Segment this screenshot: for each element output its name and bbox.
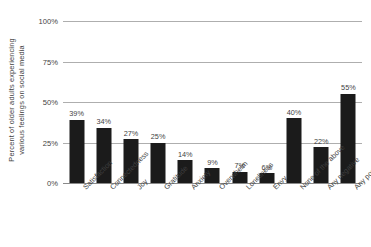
bar-value-label: 34% [96, 117, 111, 126]
bar-group: 34% [90, 21, 117, 183]
x-axis-label: Gratitude [162, 185, 168, 191]
x-axis-labels: SatisfactionConnectednessJoyGratitudeAnx… [63, 185, 362, 247]
x-axis-label: Envy [271, 185, 277, 191]
bar-value-label: 40% [287, 108, 302, 117]
x-axis-label: None of the above [298, 185, 304, 191]
x-axis-label: Any positive [352, 185, 358, 191]
y-tick-label: 100% [39, 17, 58, 26]
bar-value-label: 22% [314, 137, 329, 146]
x-axis-label: Connectedness [108, 185, 114, 191]
bar-value-label: 9% [207, 158, 218, 167]
bar-value-label: 25% [151, 132, 166, 141]
bar-group: 25% [145, 21, 172, 183]
bar-value-label: 27% [124, 129, 139, 138]
x-axis-label: Any negative [325, 185, 331, 191]
bar [287, 118, 302, 183]
y-tick-label: 50% [43, 98, 58, 107]
x-axis-label: Loneliness [244, 185, 250, 191]
bar-group: 6% [253, 21, 280, 183]
y-axis-title: Percent of older adults experiencing var… [0, 0, 34, 200]
bar-group: 9% [199, 21, 226, 183]
x-axis-label: Satisfaction [81, 185, 87, 191]
x-axis-label: Overwhelm [217, 185, 223, 191]
bar-group: 7% [226, 21, 253, 183]
bar-value-label: 55% [341, 83, 356, 92]
bar [69, 120, 84, 183]
y-tick-label: 25% [43, 138, 58, 147]
y-tick-label: 75% [43, 57, 58, 66]
bar-chart: Percent of older adults experiencing var… [0, 0, 371, 247]
x-axis-label: Anxiety [189, 185, 195, 191]
x-axis-label: Joy [135, 185, 141, 191]
y-axis-title-line-2: various feelings on social media [17, 45, 28, 155]
bar-value-label: 14% [178, 150, 193, 159]
bar-group: 39% [63, 21, 90, 183]
bar-group: 40% [280, 21, 307, 183]
y-tick-label: 0% [47, 179, 58, 188]
bar-value-label: 39% [69, 109, 84, 118]
bar [151, 143, 166, 184]
bar-group: 14% [172, 21, 199, 183]
y-axis-title-line-1: Percent of older adults experiencing [7, 38, 18, 161]
